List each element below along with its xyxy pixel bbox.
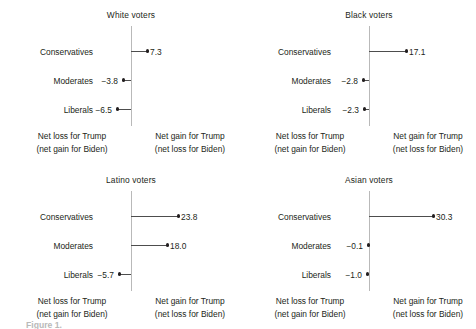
footer-right-line2: (net loss for Biden) (372, 308, 476, 321)
footer-right: Net gain for Trump (net loss for Biden) (134, 295, 246, 320)
panel-title: Black voters (131, 10, 476, 20)
connector-segment (131, 51, 147, 52)
value-label: −6.5 (54, 104, 112, 116)
footer-left: Net loss for Trump (net gain for Biden) (254, 130, 366, 155)
data-row: Moderates −2.8 (238, 75, 476, 87)
footer-right: Net gain for Trump (net loss for Biden) (372, 295, 476, 320)
footer-left: Net loss for Trump (net gain for Biden) (254, 295, 366, 320)
data-row: Liberals −5.7 (0, 269, 238, 281)
category-label-conservatives: Conservatives (0, 211, 93, 223)
value-label: 7.3 (150, 46, 162, 58)
footer-right-line2: (net loss for Biden) (134, 143, 246, 156)
value-marker (363, 107, 366, 110)
figure-container: White voters Conservatives 7.3 Moderates… (0, 0, 476, 329)
value-label: −2.3 (301, 104, 359, 116)
footer-left-line2: (net gain for Biden) (254, 143, 366, 156)
footer-right-line1: Net gain for Trump (134, 295, 246, 308)
panel-latino-voters: Latino voters Conservatives 23.8 Moderat… (0, 165, 238, 329)
value-label: −5.7 (56, 269, 114, 281)
panel-footer: Net loss for Trump (net gain for Biden) … (238, 130, 476, 158)
value-marker (122, 78, 125, 81)
data-row: Conservatives 17.1 (238, 46, 476, 58)
value-marker (366, 272, 369, 275)
panel-footer: Net loss for Trump (net gain for Biden) … (238, 295, 476, 323)
connector-segment (131, 245, 167, 246)
footer-right-line2: (net loss for Biden) (134, 308, 246, 321)
footer-left-line2: (net gain for Biden) (254, 308, 366, 321)
panel-title: Asian voters (131, 175, 476, 185)
footer-right: Net gain for Trump (net loss for Biden) (372, 130, 476, 155)
footer-left-line2: (net gain for Biden) (16, 143, 128, 156)
panel-footer: Net loss for Trump (net gain for Biden) … (0, 130, 238, 158)
data-row: Conservatives 23.8 (0, 211, 238, 223)
figure-caption: Figure 1. (26, 320, 62, 329)
connector-segment (369, 51, 406, 52)
connector-segment (131, 216, 178, 217)
data-row: Moderates −3.8 (0, 75, 238, 87)
value-marker (118, 272, 121, 275)
category-label-moderates: Moderates (0, 240, 93, 252)
data-row: Moderates 18.0 (0, 240, 238, 252)
category-label-conservatives: Conservatives (238, 46, 331, 58)
value-marker (146, 49, 149, 52)
value-label: −0.1 (305, 240, 363, 252)
value-label: 23.8 (181, 211, 197, 223)
data-row: Conservatives 30.3 (238, 211, 476, 223)
footer-right-line1: Net gain for Trump (134, 130, 246, 143)
value-label: −2.8 (300, 75, 358, 87)
value-marker (177, 214, 180, 217)
value-marker (166, 243, 169, 246)
data-row: Liberals −1.0 (238, 269, 476, 281)
panel-black-voters: Black voters Conservatives 17.1 Moderate… (238, 0, 476, 164)
panel-asian-voters: Asian voters Conservatives 30.3 Moderate… (238, 165, 476, 329)
value-label: −1.0 (304, 269, 362, 281)
value-marker (116, 107, 119, 110)
footer-right-line1: Net gain for Trump (372, 295, 476, 308)
connector-segment (117, 109, 131, 110)
value-marker (432, 214, 435, 217)
footer-left-line1: Net loss for Trump (254, 295, 366, 308)
category-label-conservatives: Conservatives (238, 211, 331, 223)
footer-right: Net gain for Trump (net loss for Biden) (134, 130, 246, 155)
data-row: Liberals −6.5 (0, 104, 238, 116)
value-label: 30.3 (436, 211, 452, 223)
value-label: 17.1 (409, 46, 425, 58)
value-label: 18.0 (170, 240, 186, 252)
value-marker (362, 78, 365, 81)
footer-left: Net loss for Trump (net gain for Biden) (16, 130, 128, 155)
data-row: Moderates −0.1 (238, 240, 476, 252)
connector-segment (369, 216, 433, 217)
data-row: Liberals −2.3 (238, 104, 476, 116)
value-marker (405, 49, 408, 52)
footer-left-line1: Net loss for Trump (16, 130, 128, 143)
footer-right-line2: (net loss for Biden) (372, 143, 476, 156)
panel-white-voters: White voters Conservatives 7.3 Moderates… (0, 0, 238, 164)
data-row: Conservatives 7.3 (0, 46, 238, 58)
footer-right-line1: Net gain for Trump (372, 130, 476, 143)
footer-left: Net loss for Trump (net gain for Biden) (16, 295, 128, 320)
panel-footer: Net loss for Trump (net gain for Biden) … (0, 295, 238, 323)
footer-left-line2: (net gain for Biden) (16, 308, 128, 321)
value-label: −3.8 (60, 75, 118, 87)
category-label-conservatives: Conservatives (0, 46, 93, 58)
value-marker (367, 243, 370, 246)
footer-left-line1: Net loss for Trump (254, 130, 366, 143)
footer-left-line1: Net loss for Trump (16, 295, 128, 308)
